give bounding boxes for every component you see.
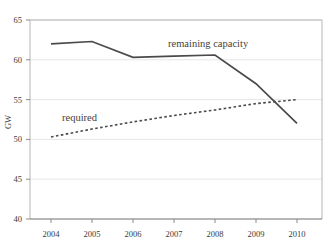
y-tick-label-45: 45 [14, 174, 23, 184]
y-tick-label-65: 65 [14, 15, 23, 25]
x-tick-label-2010: 2010 [289, 229, 306, 239]
y-tick-label-60: 60 [14, 55, 23, 65]
y-axis-title: GW [3, 115, 13, 129]
y-tick-label-40: 40 [14, 214, 23, 224]
x-tick-marks [51, 219, 297, 223]
x-tick-label-2004: 2004 [43, 229, 61, 239]
y-tick-marks [26, 20, 30, 219]
chart-figure: 65 60 55 50 45 40 GW 2004 2005 2006 2007… [0, 0, 335, 248]
x-tick-label-2009: 2009 [248, 229, 265, 239]
y-tick-label-55: 55 [14, 95, 23, 105]
annotation-required: required [62, 112, 98, 123]
line-chart-plot: 65 60 55 50 45 40 GW 2004 2005 2006 2007… [0, 0, 335, 248]
y-tick-label-50: 50 [14, 134, 23, 144]
annotation-remaining-capacity: remaining capacity [168, 38, 249, 49]
x-tick-label-2006: 2006 [125, 229, 142, 239]
x-tick-label-2008: 2008 [207, 229, 224, 239]
x-tick-label-2007: 2007 [166, 229, 183, 239]
x-tick-label-2005: 2005 [84, 229, 101, 239]
